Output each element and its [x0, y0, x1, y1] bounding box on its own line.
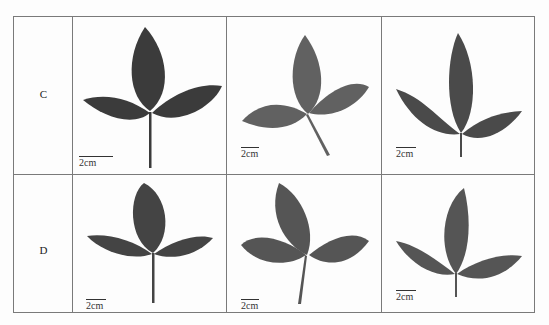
scale-bar: 2cm: [241, 147, 259, 159]
leaf-figure-table: C D 2cm 2cm: [13, 16, 535, 313]
trifoliate-leaf-icon: [73, 175, 226, 313]
leaf-image-c2: 2cm: [227, 17, 381, 174]
row-label-c: C: [14, 88, 73, 100]
leaf-image-d3: 2cm: [382, 175, 535, 313]
row-label-d: D: [14, 244, 73, 256]
scale-bar: 2cm: [79, 156, 113, 168]
trifoliate-leaf-icon: [73, 17, 226, 174]
leaf-image-c1: 2cm: [73, 17, 226, 174]
leaf-image-c3: 2cm: [382, 17, 535, 174]
scale-bar: 2cm: [86, 299, 106, 311]
scale-bar: 2cm: [396, 147, 416, 159]
leaf-image-d2: 2cm: [227, 175, 381, 313]
leaf-image-d1: 2cm: [73, 175, 226, 313]
trifoliate-leaf-icon: [227, 175, 381, 313]
scale-bar: 2cm: [241, 299, 259, 311]
scale-bar: 2cm: [396, 290, 416, 302]
